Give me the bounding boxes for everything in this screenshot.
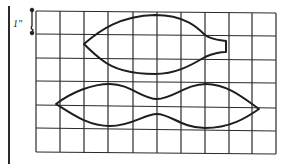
scale-marker [30, 8, 34, 35]
grid [36, 11, 276, 154]
pattern-diagram [0, 0, 287, 166]
